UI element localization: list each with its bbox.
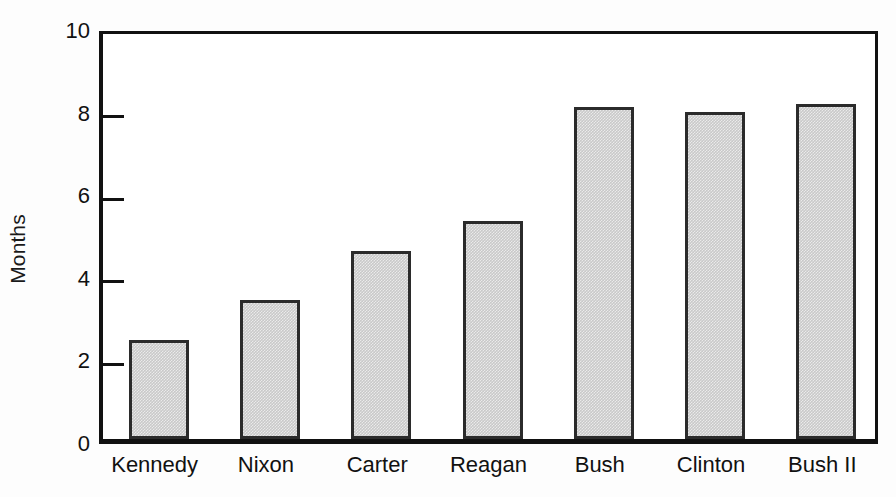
x-tick-label: Clinton — [655, 452, 766, 477]
bar — [685, 112, 745, 440]
plot-area — [103, 34, 875, 439]
y-axis-label: Months — [0, 0, 36, 497]
bar — [240, 300, 300, 439]
x-tick-label: Bush — [544, 452, 655, 477]
y-tick-label: 6 — [56, 185, 90, 207]
bar — [796, 104, 856, 439]
x-tick-label: Kennedy — [99, 452, 210, 477]
x-tick-label: Reagan — [433, 452, 544, 477]
plot-frame — [99, 31, 878, 444]
x-tick-label: Bush II — [767, 452, 878, 477]
y-axis-tick — [103, 115, 124, 118]
bar — [351, 251, 411, 439]
y-axis-label-text: Months — [6, 214, 30, 283]
y-tick-label: 10 — [56, 20, 90, 42]
y-axis-tick-labels: 0246810 — [52, 0, 90, 497]
y-tick-label: 8 — [56, 103, 90, 125]
y-tick-label: 4 — [56, 268, 90, 290]
y-axis-tick — [103, 198, 124, 201]
y-tick-label: 0 — [56, 433, 90, 455]
bar — [463, 221, 523, 439]
x-tick-label: Carter — [322, 452, 433, 477]
y-tick-label: 2 — [56, 350, 90, 372]
bar-chart: Months 0246810 KennedyNixonCarterReaganB… — [0, 0, 896, 497]
bar — [574, 107, 634, 439]
x-tick-label: Nixon — [210, 452, 321, 477]
y-axis-tick — [103, 363, 124, 366]
x-axis-tick-labels: KennedyNixonCarterReaganBushClintonBush … — [99, 452, 878, 492]
y-axis-tick — [103, 280, 124, 283]
bar — [129, 340, 189, 439]
